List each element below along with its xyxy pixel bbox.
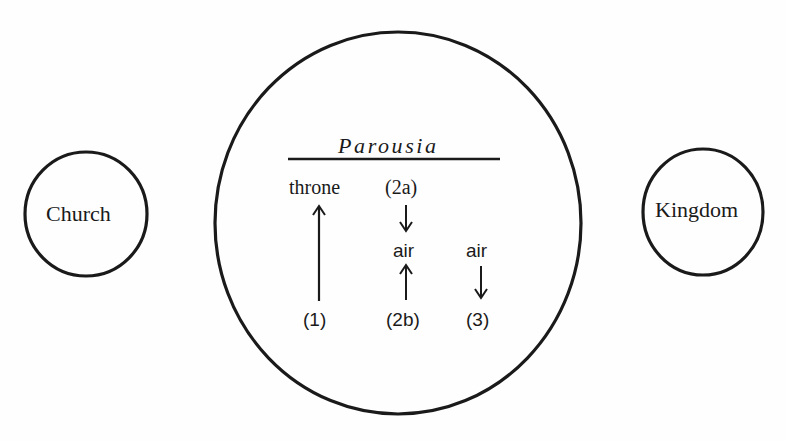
arrow-up-long-icon bbox=[313, 206, 325, 301]
arrow-down-icon bbox=[475, 266, 487, 298]
parousia-title: Parousia bbox=[338, 135, 439, 157]
throne-label: throne bbox=[289, 177, 340, 197]
kingdom-label: Kingdom bbox=[655, 199, 738, 221]
stage-3-label: (3) bbox=[466, 310, 489, 329]
stage-1-label: (1) bbox=[303, 310, 326, 329]
stage-2b-label: (2b) bbox=[386, 310, 420, 329]
arrow-down-icon bbox=[400, 205, 412, 231]
diagram-canvas: Church Kingdom Parousia throne (2a) air … bbox=[0, 0, 787, 441]
air-middle-label: air bbox=[393, 241, 414, 260]
arrow-up-icon bbox=[400, 265, 412, 300]
stage-2a-label: (2a) bbox=[385, 177, 417, 197]
parousia-ellipse bbox=[215, 32, 581, 414]
air-right-label: air bbox=[466, 241, 487, 260]
church-label: Church bbox=[46, 203, 111, 225]
